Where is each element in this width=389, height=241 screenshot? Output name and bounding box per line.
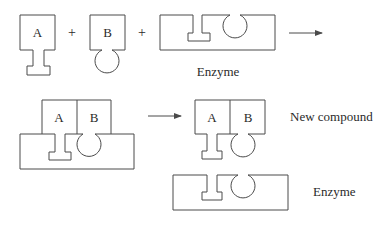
enzyme: Enzyme <box>160 15 275 79</box>
plus-sign: + <box>138 25 146 40</box>
released-enzyme <box>173 175 288 210</box>
released-enzyme-label: Enzyme <box>313 184 356 199</box>
enzyme-label: Enzyme <box>197 64 240 79</box>
new-compound: A B <box>195 100 265 159</box>
new-compound-label: New compound <box>290 109 373 124</box>
substrate-a-label: A <box>33 25 43 40</box>
complex-b-label: B <box>90 110 99 125</box>
plus-sign: + <box>68 25 76 40</box>
enzyme-substrate-complex: A B <box>20 100 134 169</box>
substrate-a: A <box>20 15 55 75</box>
product-a-label: A <box>207 110 217 125</box>
enzyme-reaction-diagram: A + B + Enzyme A B A B New compound Enzy… <box>0 0 389 241</box>
product-b-label: B <box>244 110 253 125</box>
substrate-b: B <box>90 15 125 73</box>
complex-a-label: A <box>54 110 64 125</box>
substrate-b-label: B <box>103 25 112 40</box>
